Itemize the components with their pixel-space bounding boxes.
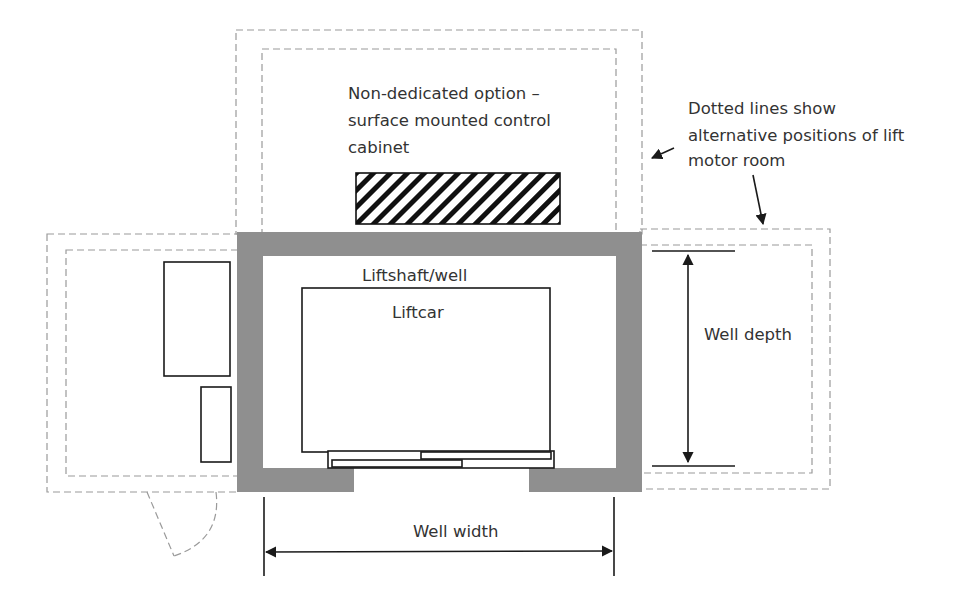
equipment-box-large xyxy=(164,262,230,376)
label-dotted-note-line1: Dotted lines show xyxy=(688,99,836,118)
label-well-depth: Well depth xyxy=(704,325,792,344)
label-well-width: Well width xyxy=(413,522,498,541)
equipment-box-small xyxy=(201,387,231,462)
door-swing xyxy=(147,492,217,556)
wall-bottom-right xyxy=(529,468,642,492)
arrow-to-top-room xyxy=(652,148,674,158)
width-arrow xyxy=(266,551,612,552)
door-panel-right xyxy=(421,452,551,459)
label-dotted-note-line3: motor room xyxy=(688,151,785,170)
motor-room-right xyxy=(640,229,830,489)
well-depth-dimension xyxy=(652,251,735,466)
label-liftcar: Liftcar xyxy=(392,303,444,322)
label-non-dedicated-line2: surface mounted control xyxy=(348,111,551,130)
wall-left xyxy=(237,232,263,492)
label-non-dedicated-line3: cabinet xyxy=(348,138,410,157)
door-leaf xyxy=(147,492,174,556)
label-liftshaft: Liftshaft/well xyxy=(362,266,467,285)
control-cabinet xyxy=(356,173,560,224)
label-dotted-note-line2: alternative positions of lift xyxy=(688,126,905,145)
door-arc xyxy=(174,492,217,556)
label-non-dedicated-line1: Non-dedicated option – xyxy=(348,84,540,103)
lift-plan-diagram: Non-dedicated option – surface mounted c… xyxy=(0,0,968,603)
door-panel-left xyxy=(332,460,462,467)
car-doors xyxy=(328,451,554,468)
wall-top xyxy=(237,232,642,256)
wall-right xyxy=(616,232,642,492)
motor-room-right-inner xyxy=(640,245,812,473)
arrow-to-right-room xyxy=(753,175,763,224)
motor-room-left xyxy=(47,234,238,492)
motor-room-right-outer xyxy=(640,229,830,489)
wall-bottom-left xyxy=(237,468,354,492)
